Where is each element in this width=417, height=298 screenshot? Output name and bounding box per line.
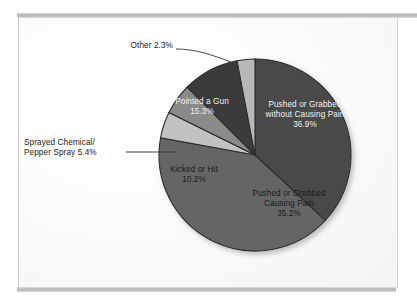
pie-label-sprayed-chemical-pepper-spray: Sprayed Chemical/ Pepper Spray 5.4% <box>24 138 124 158</box>
leader-line-other <box>176 49 231 62</box>
pie-chart: Other 2.3% Sprayed Chemical/ Pepper Spra… <box>0 0 417 298</box>
scanned-page: Other 2.3% Sprayed Chemical/ Pepper Spra… <box>0 0 417 298</box>
pie-slices-group <box>159 59 351 251</box>
pie-label-pointed-a-gun: Pointed a Gun 15.3% <box>160 97 244 117</box>
pie-label-pushed-without-causing-pain: Pushed or Grabbed without Causing Pain 3… <box>255 100 355 130</box>
pie-label-other: Other 2.3% <box>101 41 173 51</box>
pie-label-pushed-causing-pain: Pushed or Grabbed Causing Pain 35.2% <box>237 189 341 219</box>
pie-label-kicked-or-hit: Kicked or Hit 10.2% <box>155 165 233 185</box>
